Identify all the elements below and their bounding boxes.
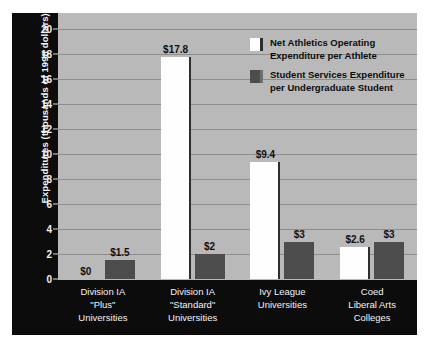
y-tick-label: 14 (41, 99, 52, 110)
bar-value-label: $2 (204, 241, 215, 252)
y-axis-ticks: 02468101214161820 (26, 13, 58, 335)
y-tick-label: 12 (41, 124, 52, 135)
y-tick-label: 0 (46, 274, 52, 285)
x-axis-group-label: Ivy LeagueUniversities (258, 285, 307, 311)
legend-label-student-services: Student Services Expenditure per Undergr… (270, 69, 405, 94)
bar-value-label: $2.6 (345, 234, 364, 245)
x-axis-group-label: Division IA"Plus"Universities (78, 285, 127, 324)
y-tick-label: 16 (41, 74, 52, 85)
bar (195, 254, 225, 279)
x-label-line: Coed (361, 286, 384, 297)
bar-value-label: $9.4 (256, 149, 275, 160)
legend-label-net-athletics: Net Athletics Operating Expenditure per … (270, 37, 377, 62)
x-axis-group-label: CoedLiberal ArtsColleges (348, 285, 396, 324)
legend-label-line1: Net Athletics Operating (270, 37, 375, 48)
gridline (58, 129, 417, 130)
bar (374, 242, 404, 280)
y-tick-label: 4 (46, 224, 52, 235)
bar-value-label: $3 (384, 229, 395, 240)
x-label-line: Ivy League (259, 286, 305, 297)
bar (340, 247, 370, 280)
y-tick-label: 18 (41, 49, 52, 60)
x-label-line: "Standard" (170, 299, 215, 310)
legend-label-line1: Student Services Expenditure (270, 69, 405, 80)
bar-value-label: $1.5 (110, 247, 129, 258)
y-tick-label: 10 (41, 149, 52, 160)
y-tick-label: 8 (46, 174, 52, 185)
x-axis-group-label: Division IA"Standard"Universities (168, 285, 217, 324)
chart-figure: Expenditures (thousands of 1998 dollars)… (12, 13, 417, 335)
gridline (58, 154, 417, 155)
y-tick-label: 6 (46, 199, 52, 210)
y-tick-label: 2 (46, 249, 52, 260)
bar-value-label: $3 (294, 229, 305, 240)
bar (105, 260, 135, 279)
chart-legend: Net Athletics Operating Expenditure per … (250, 37, 417, 101)
y-tick-label: 20 (41, 24, 52, 35)
x-axis-labels: Division IA"Plus"UniversitiesDivision IA… (58, 280, 417, 335)
legend-swatch-net-athletics (250, 38, 263, 51)
x-label-line: Division IA (80, 286, 125, 297)
bar (284, 242, 314, 280)
legend-swatch-student-services (250, 70, 263, 83)
legend-item: Net Athletics Operating Expenditure per … (250, 37, 417, 62)
x-label-line: Universities (258, 299, 307, 310)
gridline (58, 29, 417, 30)
gridline (58, 104, 417, 105)
x-label-line: Universities (78, 312, 127, 323)
gridline (58, 204, 417, 205)
plot-area: $0$1.5$17.8$2$9.4$3$2.6$3 Net Athletics … (58, 13, 417, 280)
bar (161, 57, 191, 280)
bar (250, 162, 280, 280)
gridline (58, 229, 417, 230)
x-label-line: Liberal Arts (348, 299, 396, 310)
bar-value-label: $17.8 (163, 44, 188, 55)
x-label-line: "Plus" (90, 299, 115, 310)
legend-label-line2: per Undergraduate Student (270, 82, 393, 93)
legend-item: Student Services Expenditure per Undergr… (250, 69, 417, 94)
x-label-line: Division IA (170, 286, 215, 297)
legend-label-line2: Expenditure per Athlete (270, 50, 377, 61)
x-label-line: Colleges (354, 312, 391, 323)
gridline (58, 179, 417, 180)
x-label-line: Universities (168, 312, 217, 323)
bar-value-label: $0 (80, 266, 91, 277)
